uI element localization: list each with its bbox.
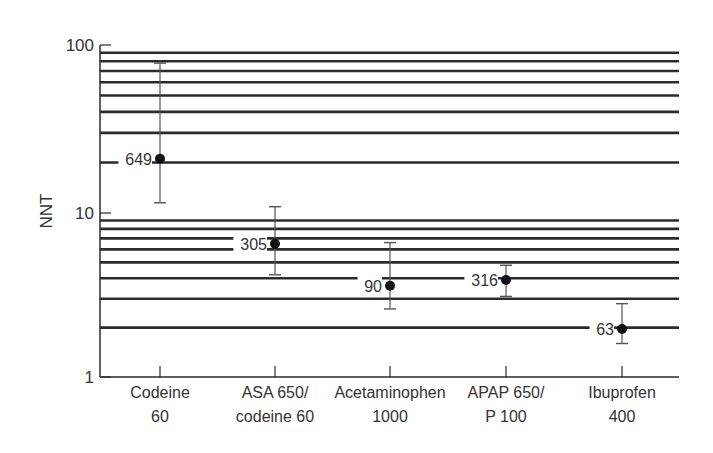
- data-point: 316: [464, 265, 512, 296]
- x-tick-label: 1000: [372, 408, 408, 425]
- x-tick-label: 400: [609, 408, 636, 425]
- point-marker: [501, 275, 511, 285]
- point-marker: [385, 281, 395, 291]
- point-label: 90: [364, 278, 382, 295]
- x-tick-label: codeine 60: [236, 408, 314, 425]
- point-marker: [155, 154, 165, 164]
- data-point: 305: [233, 207, 281, 275]
- point-label: 649: [125, 151, 152, 168]
- y-tick-label: 10: [75, 204, 94, 223]
- data-point: 63: [590, 304, 628, 344]
- x-tick-label: P 100: [485, 408, 527, 425]
- x-tick-label: 60: [151, 408, 169, 425]
- x-tick-label: ASA 650/: [242, 384, 309, 401]
- x-tick-label: Ibuprofen: [588, 384, 656, 401]
- nnt-chart: 110100NNTCodeine60ASA 650/codeine 60Acet…: [0, 0, 713, 453]
- point-label: 63: [596, 321, 614, 338]
- point-marker: [270, 239, 280, 249]
- point-marker: [617, 324, 627, 334]
- x-tick-label: APAP 650/: [468, 384, 545, 401]
- point-label: 305: [240, 236, 267, 253]
- x-tick-label: Codeine: [130, 384, 190, 401]
- x-tick-label: Acetaminophen: [334, 384, 445, 401]
- y-axis-label: NNT: [37, 194, 56, 229]
- point-label: 316: [471, 272, 498, 289]
- y-tick-label: 100: [66, 36, 94, 55]
- y-tick-label: 1: [85, 368, 94, 387]
